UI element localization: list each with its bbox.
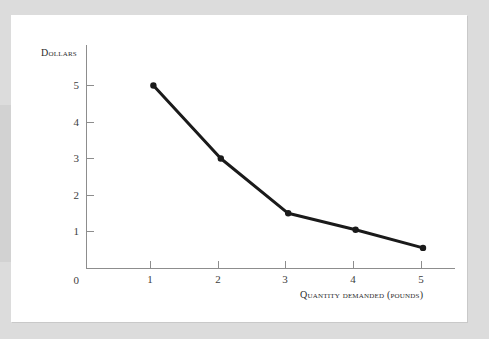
data-point-3 xyxy=(285,210,291,216)
data-point-1 xyxy=(150,82,156,88)
demand-curve-line xyxy=(153,86,423,248)
plot-area: Dollars Quantity demanded (pounds) 5 4 3… xyxy=(0,0,489,339)
chart-figure: Dollars Quantity demanded (pounds) 5 4 3… xyxy=(0,0,489,339)
demand-curve-svg xyxy=(0,0,489,339)
data-point-2 xyxy=(218,155,224,161)
data-point-5 xyxy=(420,245,426,251)
data-point-4 xyxy=(352,227,358,233)
demand-curve-markers xyxy=(150,82,426,251)
